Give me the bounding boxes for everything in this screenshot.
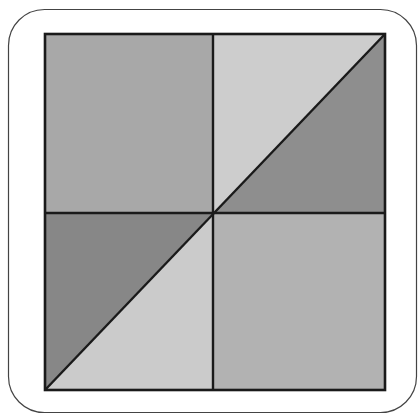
quadrant-diagram bbox=[0, 0, 419, 415]
region-top-left bbox=[45, 34, 213, 213]
region-bottom-right bbox=[213, 213, 385, 390]
